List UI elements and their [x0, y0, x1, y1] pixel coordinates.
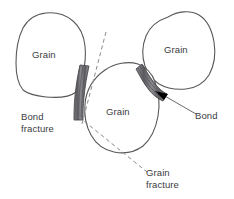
bond-fracture-label-line1: Bond [21, 111, 44, 123]
grain-label-right: Grain [164, 44, 188, 56]
grain-label-left: Grain [32, 49, 56, 61]
bond-fracture-label-line2: fracture [21, 123, 54, 135]
diagram-canvas [0, 0, 234, 199]
grain-fracture-label-line2: fracture [146, 179, 179, 191]
grain-bond-fracture-diagram: Grain Grain Grain Bond fracture Grain fr… [0, 0, 234, 199]
grain-label-center: Grain [106, 106, 130, 118]
bond-label: Bond [195, 110, 218, 122]
grain-fracture-label-line1: Grain [146, 167, 170, 179]
bond-leader-line [155, 91, 196, 114]
